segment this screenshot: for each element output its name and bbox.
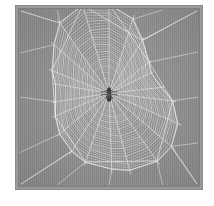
screenshot-stage (0, 0, 214, 206)
photo-frame (15, 5, 203, 190)
spider-web-illustration (19, 9, 199, 186)
photo-inner-frame (18, 8, 200, 187)
